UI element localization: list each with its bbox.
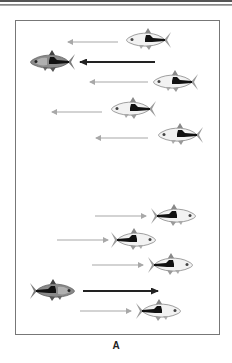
fish-icon [127, 28, 171, 50]
panel-label: A [0, 340, 232, 351]
fish-icon [111, 228, 155, 250]
top-group [31, 28, 203, 145]
leader-fish-icon [31, 50, 75, 72]
bottom-group [30, 204, 195, 321]
fish-school-diagram [0, 0, 232, 363]
fish-icon [148, 253, 192, 275]
leader-fish-icon [30, 279, 74, 301]
fish-icon [136, 299, 180, 321]
fish-icon [154, 70, 198, 92]
fish-icon [159, 123, 203, 145]
fish-icon [112, 97, 156, 119]
fish-icon [151, 204, 195, 226]
